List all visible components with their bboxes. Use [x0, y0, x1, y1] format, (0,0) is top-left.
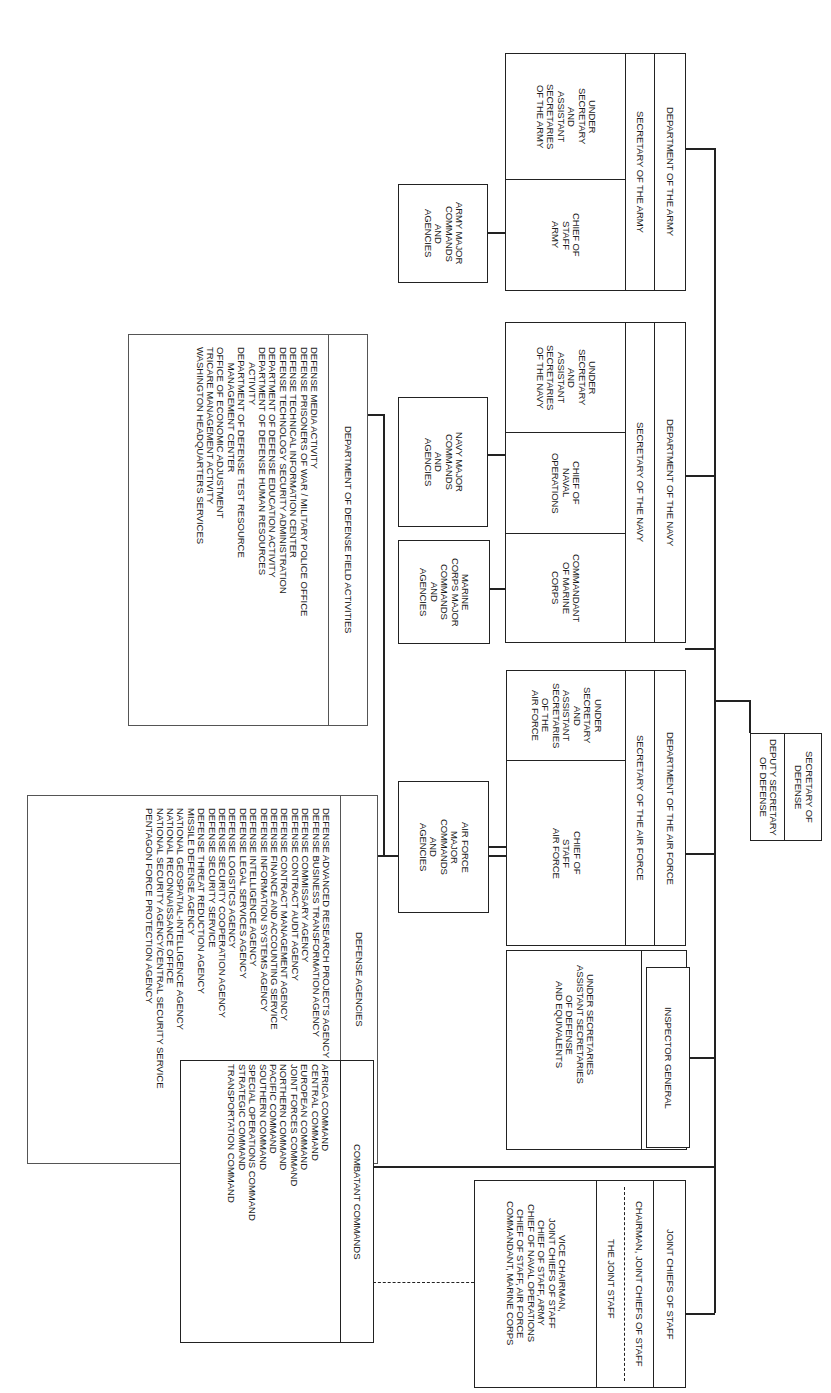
- field-activities-title: DEPARTMENT OF DEFENSE FIELD ACTIVITIES: [343, 426, 354, 633]
- secdef-label: SECRETARY OF DEFENSE: [793, 734, 814, 840]
- af-chief-label: CHIEF OF STAFF AIR FORCE: [550, 828, 582, 879]
- secdef-riser: [749, 700, 751, 733]
- joint-chiefs-of-staff: JOINT CHIEFS OF STAFF CHAIRMAN, JOINT CH…: [474, 1180, 686, 1388]
- army-chief-label: CHIEF OF STAFF ARMY: [550, 213, 582, 257]
- jcs-combatant-dashed-line: [373, 1282, 474, 1283]
- chief-of-naval-operations: CHIEF OF NAVAL OPERATIONS: [506, 432, 625, 533]
- secdef-connector: [714, 700, 750, 702]
- jcs-connector: [685, 1313, 715, 1315]
- army-department-label: DEPARTMENT OF THE ARMY: [665, 107, 676, 236]
- secdef-cell: SECRETARY OF DEFENSE: [785, 734, 821, 840]
- af-major-commands: AIR FORCE MAJOR COMMANDS AND AGENCIES: [398, 781, 489, 913]
- navy-connector: [685, 475, 715, 477]
- combatant-commands: COMBATANT COMMANDS AFRICA COMMAND CENTRA…: [180, 1060, 374, 1343]
- af-major-connector: [488, 846, 506, 848]
- army-connector: [685, 148, 715, 150]
- army-secretary-label: SECRETARY OF THE ARMY: [635, 111, 646, 233]
- defense-agencies-list: DEFENSE ADVANCED RESEARCH PROJECTS AGENC…: [144, 808, 331, 1089]
- combatant-connector: [373, 1166, 715, 1168]
- jcs-title: JOINT CHIEFS OF STAFF: [664, 1229, 675, 1340]
- navy-department-label: DEPARTMENT OF THE NAVY: [665, 419, 676, 546]
- marine-corps-major-commands: MARINE CORPS MAJOR COMMANDS AND AGENCIES: [398, 540, 490, 644]
- af-under-secretaries-label: UNDER SECRETARY AND ASSISTANT SECRETARIE…: [529, 683, 603, 748]
- jcs-chairman-label: CHAIRMAN, JOINT CHIEFS OF STAFF: [634, 1201, 645, 1366]
- marine-major-connector: [490, 588, 506, 590]
- af-major-commands-label: AIR FORCE MAJOR COMMANDS AND AGENCIES: [417, 819, 470, 875]
- navy-chief-label: CHIEF OF NAVAL OPERATIONS: [550, 453, 582, 514]
- navy-under-secretaries-label: UNDER SECRETARY AND ASSISTANT SECRETARIE…: [534, 345, 597, 410]
- commandant-label: COMMANDANT OF MARINE CORPS: [550, 554, 582, 622]
- osd-body-label: UNDER SECRETARIES ASSISTANT SECRETARIES …: [553, 965, 595, 1084]
- joint-staff-label: THE JOINT STAFF: [606, 1239, 617, 1318]
- navy-major-commands: NAVY MAJOR COMMANDS AND AGENCIES: [398, 397, 488, 527]
- af-secretary-label: SECRETARY OF THE AIR FORCE: [635, 735, 646, 881]
- osd-connector: [686, 853, 715, 855]
- navy-under-secretaries: UNDER SECRETARY AND ASSISTANT SECRETARIE…: [506, 323, 625, 432]
- navy-secretary-header: SECRETARY OF THE NAVY: [625, 323, 655, 642]
- osd-body: UNDER SECRETARIES ASSISTANT SECRETARIES …: [507, 951, 641, 1149]
- af-secretary-header: SECRETARY OF THE AIR FORCE: [625, 671, 655, 945]
- field-activities-connector: [367, 414, 384, 416]
- airforce-connector: [685, 648, 715, 650]
- combatant-commands-title: COMBATANT COMMANDS: [352, 1144, 363, 1259]
- secretary-of-defense: SECRETARY OF DEFENSE DEPUTY SECRETARY OF…: [750, 733, 822, 841]
- inspector-general-label: INSPECTOR GENERAL: [663, 1007, 674, 1109]
- jcs-header: JOINT CHIEFS OF STAFF: [653, 1181, 685, 1387]
- joint-staff: THE JOINT STAFF: [597, 1181, 625, 1387]
- field-activities-list: DEFENSE MEDIA ACTIVITY DEFENSE PRISONERS…: [194, 347, 319, 616]
- ig-connector: [690, 1057, 715, 1059]
- af-chief-of-staff: CHIEF OF STAFF AIR FORCE: [507, 760, 625, 945]
- jcs-members-label: VICE CHAIRMAN, JOINT CHIEFS OF STAFF CHI…: [504, 1201, 567, 1345]
- navy-secretary-label: SECRETARY OF THE NAVY: [635, 422, 646, 542]
- combatant-commands-header: COMBATANT COMMANDS: [340, 1061, 373, 1342]
- marine-corps-major-commands-label: MARINE CORPS MAJOR COMMANDS AND AGENCIES: [418, 558, 471, 627]
- commandant-of-marine-corps: COMMANDANT OF MARINE CORPS: [506, 533, 625, 642]
- jcs-members: VICE CHAIRMAN, JOINT CHIEFS OF STAFF CHI…: [475, 1181, 597, 1387]
- af-department-header: DEPARTMENT OF THE AIR FORCE: [655, 671, 685, 945]
- combatant-commands-list: AFRICA COMMAND CENTRAL COMMAND EUROPEAN …: [226, 1064, 330, 1221]
- army-chief-of-staff: CHIEF OF STAFF ARMY: [506, 179, 625, 290]
- department-of-the-air-force: DEPARTMENT OF THE AIR FORCE SECRETARY OF…: [506, 670, 686, 946]
- army-under-secretaries: UNDER SECRETARY AND ASSISTANT SECRETARIE…: [506, 54, 625, 179]
- navy-major-commands-label: NAVY MAJOR COMMANDS AND AGENCIES: [422, 432, 464, 492]
- navy-major-connector: [487, 454, 506, 456]
- army-major-connector: [487, 232, 506, 234]
- jcs-chairman: CHAIRMAN, JOINT CHIEFS OF STAFF: [625, 1181, 653, 1387]
- field-activities-header: DEPARTMENT OF DEFENSE FIELD ACTIVITIES: [328, 335, 367, 725]
- army-secretary-header: SECRETARY OF THE ARMY: [625, 54, 655, 290]
- department-of-the-navy: DEPARTMENT OF THE NAVY SECRETARY OF THE …: [505, 322, 686, 643]
- af-under-secretaries: UNDER SECRETARY AND ASSISTANT SECRETARIE…: [507, 671, 625, 760]
- defense-agencies-title: DEFENSE AGENCIES: [354, 932, 365, 1026]
- army-department-header: DEPARTMENT OF THE ARMY: [655, 54, 685, 290]
- af-department-label: DEPARTMENT OF THE AIR FORCE: [665, 732, 676, 885]
- deputy-secdef-label: DEPUTY SECRETARY OF DEFENSE: [757, 734, 778, 840]
- department-of-the-army: DEPARTMENT OF THE ARMY SECRETARY OF THE …: [505, 53, 686, 291]
- trunk-line: [714, 148, 716, 1313]
- army-major-commands-label: ARMY MAJOR COMMANDS AND AGENCIES: [422, 202, 464, 264]
- army-under-secretaries-label: UNDER SECRETARY AND ASSISTANT SECRETARIE…: [534, 84, 597, 149]
- navy-department-header: DEPARTMENT OF THE NAVY: [655, 323, 685, 642]
- agencies-trunk: [383, 414, 385, 856]
- army-major-commands: ARMY MAJOR COMMANDS AND AGENCIES: [398, 184, 488, 283]
- inspector-general: INSPECTOR GENERAL: [646, 967, 690, 1148]
- dod-field-activities: DEPARTMENT OF DEFENSE FIELD ACTIVITIES D…: [128, 334, 368, 726]
- deputy-secdef-cell: DEPUTY SECRETARY OF DEFENSE: [751, 734, 785, 840]
